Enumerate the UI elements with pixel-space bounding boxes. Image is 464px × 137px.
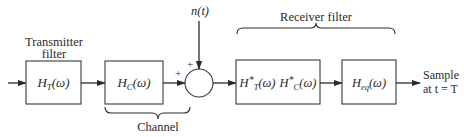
sample-label-line2: at t = T [423,82,459,96]
mf2-arg: (ω) [299,76,316,90]
equalizer-block: Heq(ω) [342,60,396,104]
summer-plus-left: + [175,67,181,79]
receiver-filter-brace [237,23,395,34]
matched-filter-block: H*T(ω)H*C(ω) [236,60,320,104]
svg-text:Heq(ω): Heq(ω) [351,76,386,92]
hc-arg: (ω) [133,75,151,90]
ht-arg: (ω) [52,75,70,90]
svg-text:HC(ω): HC(ω) [116,75,150,92]
summer-plus-top: + [187,58,193,70]
transmitter-filter-block: HT(ω) [26,61,81,104]
ht-symbol: H [36,75,47,90]
channel-brace [105,107,190,119]
channel-block: HC(ω) [105,61,163,104]
noise-label: n(t) [191,4,209,18]
hc-symbol: H [116,75,127,90]
summing-junction [185,69,213,97]
svg-text:HT(ω): HT(ω) [36,75,69,92]
channel-label: Channel [137,120,179,134]
block-diagram: Transmitter filter HT(ω) HC(ω) + n(t) + … [0,0,464,137]
heq-arg: (ω) [369,76,386,90]
sample-label-line1: Sample [423,68,459,82]
mf1-arg: (ω) [258,76,275,90]
transmitter-filter-label-line2: filter [42,47,67,61]
receiver-filter-label: Receiver filter [280,10,353,24]
